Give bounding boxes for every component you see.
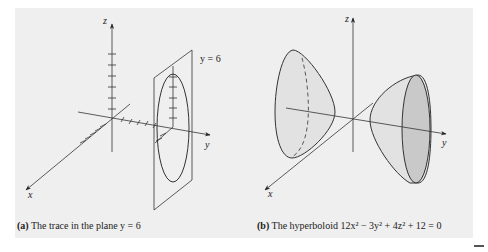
y-axis-label-b: y bbox=[441, 137, 447, 148]
plane-label: y = 6 bbox=[200, 53, 221, 64]
y-axis-label-a: y bbox=[204, 139, 210, 150]
x-axis-label-b: x bbox=[267, 188, 273, 199]
z-axis-label-a: z bbox=[102, 15, 107, 26]
y-axis bbox=[78, 112, 210, 135]
y-axis-ticks bbox=[121, 117, 156, 128]
x-axis bbox=[26, 104, 130, 190]
caption-a-label: (a) bbox=[17, 220, 29, 231]
caption-b-text: The hyperboloid 12x² − 3y² + 4z² + 12 = … bbox=[269, 220, 441, 231]
left-nappe bbox=[275, 50, 335, 158]
caption-a: (a) The trace in the plane y = 6 bbox=[17, 220, 141, 231]
caption-b: (b) The hyperboloid 12x² − 3y² + 4z² + 1… bbox=[257, 220, 441, 231]
caption-b-label: (b) bbox=[257, 220, 269, 231]
figure-diagrams: z x y y = 6 z x y bbox=[0, 0, 488, 252]
z-axis-label-b: z bbox=[344, 13, 349, 24]
figure-a-diagram bbox=[26, 24, 210, 210]
figure-b-diagram bbox=[265, 18, 446, 190]
caption-a-text: The trace in the plane y = 6 bbox=[29, 220, 141, 231]
corner-mark bbox=[474, 245, 484, 247]
x-axis-label-a: x bbox=[27, 189, 33, 200]
